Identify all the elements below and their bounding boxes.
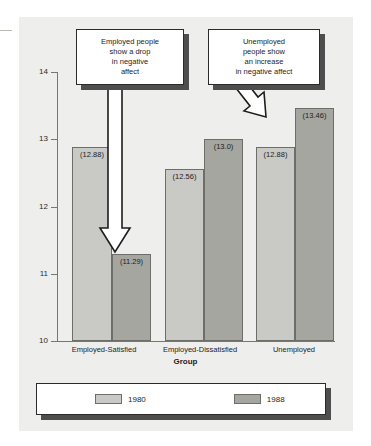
callout-line: people show: [236, 47, 293, 57]
callout-line: an increase: [236, 57, 293, 67]
callout-employed: Employed people show a drop in negative …: [76, 29, 184, 85]
bar-1980-unemployed[interactable]: (12.88): [256, 147, 295, 341]
x-axis-line: [57, 341, 335, 342]
y-tick-label-12: 12: [30, 203, 48, 211]
bar-value-label: (12.88): [80, 151, 104, 159]
bar-1988-employed-dissatisfied[interactable]: (13.0): [204, 139, 243, 341]
y-tick-label-13: 13: [30, 135, 48, 143]
y-tick-mark-11: [51, 274, 58, 275]
callout-line: in negative affect: [236, 67, 293, 77]
callout-text: Unemployed people show an increase in ne…: [232, 37, 297, 77]
callout-unemployed: Unemployed people show an increase in ne…: [208, 29, 320, 85]
bar-value-label: (13.0): [214, 143, 234, 151]
legend-label: 1980: [128, 395, 146, 404]
y-tick-mark-12: [51, 207, 58, 208]
legend-item-1988[interactable]: 1988: [234, 394, 285, 404]
y-tick-label-11: 11: [30, 270, 48, 278]
bar-1988-employed-satisfied[interactable]: (11.29): [112, 254, 151, 341]
legend-swatch-icon: [234, 394, 261, 404]
callout-line: Employed people: [101, 37, 159, 47]
callout-box[interactable]: Unemployed people show an increase in ne…: [208, 29, 320, 85]
figure-root: 14 13 12 11 10 Reported negative affect …: [0, 0, 371, 446]
callout-line: show a drop: [101, 47, 159, 57]
legend-label: 1988: [267, 395, 285, 404]
y-tick-label-10: 10: [30, 337, 48, 345]
legend-item-1980[interactable]: 1980: [95, 394, 146, 404]
y-tick-mark-14: [51, 72, 58, 73]
legend-swatch-icon: [95, 394, 122, 404]
bar-value-label: (12.88): [264, 151, 288, 159]
bar-value-label: (12.56): [173, 173, 197, 181]
legend-box: 1980 1988: [36, 383, 326, 415]
y-tick-mark-10: [51, 341, 58, 342]
x-category-label-employed-dissatisfied: Employed-Dissatisfied: [148, 345, 252, 354]
x-category-label-employed-satisfied: Employed-Satisfied: [58, 345, 150, 354]
callout-text: Employed people show a drop in negative …: [97, 37, 163, 77]
bar-1988-unemployed[interactable]: (13.46): [295, 108, 334, 341]
legend: 1980 1988: [36, 383, 326, 415]
corner-mark: [0, 30, 12, 31]
plot-area: (12.88) (11.29) (12.56) (13.0) (12.88) (…: [58, 72, 334, 341]
y-tick-label-14: 14: [30, 68, 48, 76]
bar-1980-employed-dissatisfied[interactable]: (12.56): [165, 169, 204, 341]
x-category-label-unemployed: Unemployed: [252, 345, 336, 354]
bar-1980-employed-satisfied[interactable]: (12.88): [72, 147, 112, 341]
bar-value-label: (13.46): [303, 112, 327, 120]
x-axis-title: Group: [0, 357, 371, 366]
callout-line: in negative: [101, 57, 159, 67]
bar-value-label: (11.29): [120, 258, 143, 266]
y-tick-mark-13: [51, 139, 58, 140]
callout-line: affect: [101, 67, 159, 77]
callout-box[interactable]: Employed people show a drop in negative …: [76, 29, 184, 85]
callout-line: Unemployed: [236, 37, 293, 47]
